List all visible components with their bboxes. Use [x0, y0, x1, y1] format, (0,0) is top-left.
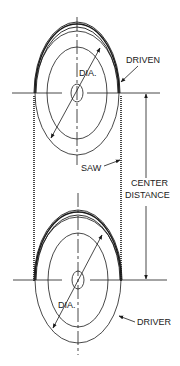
- driver-label: DRIVER: [137, 317, 172, 327]
- top-dia-label: DIA.: [79, 68, 97, 78]
- center-label: CENTER: [131, 178, 169, 188]
- saw-label: SAW: [81, 163, 102, 173]
- driven-wheel: [34, 17, 120, 165]
- driven-leader: [121, 66, 138, 82]
- distance-label: DISTANCE: [125, 190, 170, 200]
- bottom-dia-label: DIA.: [58, 300, 76, 310]
- driven-label: DRIVEN: [126, 55, 160, 65]
- band-saw-diagram: DRIVEN DIA. SAW CENTER DISTANCE DIA. DRI…: [0, 0, 180, 366]
- saw-leader: [104, 160, 120, 166]
- driver-wheel: [34, 193, 122, 355]
- driver-leader: [119, 316, 135, 322]
- driver-diameter-arrow: [53, 235, 102, 328]
